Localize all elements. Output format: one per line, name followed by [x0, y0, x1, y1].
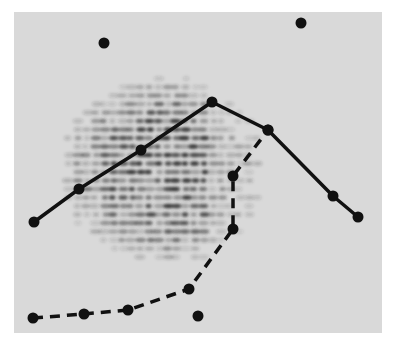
dashed-line-point — [263, 125, 274, 136]
dashed-line-point — [28, 313, 39, 324]
isolated-dot — [99, 38, 110, 49]
dashed-line-point — [123, 305, 134, 316]
diffraction-figure — [0, 0, 396, 347]
dashed-line-point — [228, 171, 239, 182]
solid-line-point — [207, 97, 218, 108]
solid-line-point — [29, 217, 40, 228]
solid-line-point — [328, 191, 339, 202]
isolated-dot — [193, 311, 204, 322]
dashed-line-point — [79, 309, 90, 320]
dashed-line-point — [228, 224, 239, 235]
solid-line-point — [353, 212, 364, 223]
solid-line-point — [74, 184, 85, 195]
solid-line-point — [136, 145, 147, 156]
dashed-line-point — [184, 284, 195, 295]
isolated-dot — [296, 18, 307, 29]
